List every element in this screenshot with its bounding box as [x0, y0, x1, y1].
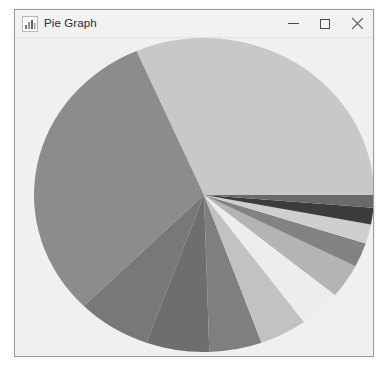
window-controls	[277, 10, 373, 38]
minimize-button[interactable]	[277, 10, 309, 38]
chart-icon	[22, 16, 38, 32]
maximize-button[interactable]	[309, 10, 341, 38]
pie-graph-window: Pie Graph Slice 1: 31.5Slice 2: 31Slice …	[14, 9, 374, 357]
pie-chart[interactable]: Slice 1: 31.5Slice 2: 31Slice 3: 7Slice …	[15, 38, 373, 356]
chart-client-area: Slice 1: 31.5Slice 2: 31Slice 3: 7Slice …	[15, 38, 373, 356]
pie-slice-group: Slice 1: 31.5Slice 2: 31Slice 3: 7Slice …	[34, 38, 373, 352]
close-button[interactable]	[341, 10, 373, 38]
window-title: Pie Graph	[44, 18, 97, 30]
maximize-icon	[320, 19, 330, 29]
minimize-icon	[288, 23, 299, 24]
screen: Pie Graph Slice 1: 31.5Slice 2: 31Slice …	[0, 0, 387, 367]
title-bar[interactable]: Pie Graph	[15, 10, 373, 38]
close-icon	[351, 18, 363, 30]
